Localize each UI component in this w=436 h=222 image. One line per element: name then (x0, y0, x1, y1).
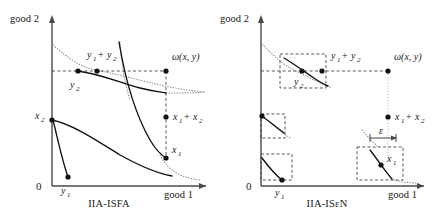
caption-right: IIA-ISεN (218, 198, 436, 209)
caption-left: IIA-ISFA (0, 198, 218, 209)
curve-y-upper (78, 71, 166, 93)
point-y1-plus-y2 (94, 68, 99, 73)
epsilon-measure (370, 134, 397, 142)
curve-aggregate-steep (119, 42, 166, 158)
label-x2: x 2 (34, 110, 45, 124)
svg-text:x: x (34, 110, 40, 121)
point-omega (385, 68, 390, 73)
svg-text:y: y (69, 79, 75, 90)
label-omega: ω(x, y) (394, 51, 422, 63)
point-x1 (163, 155, 168, 160)
panel-iia-isfa: good 2 good 1 0 y 2 y 1 + y 2 ω(x, y) x … (0, 0, 218, 222)
y-axis-label: good 2 (10, 13, 39, 24)
x-axis-arrowhead (199, 183, 206, 189)
x-axis-arrowhead (417, 183, 424, 189)
plot-right: good 2 good 1 0 y 2 y 1 + y 2 ω(x, y) x … (218, 0, 436, 200)
svg-text:y: y (293, 76, 299, 87)
label-x1-plus-x2: x 1 + x 2 (172, 111, 203, 125)
panel-iia-isen: good 2 good 1 0 y 2 y 1 + y 2 ω(x, y) x … (218, 0, 436, 222)
label-omega: ω(x, y) (172, 51, 200, 63)
plot-left: good 2 good 1 0 y 2 y 1 + y 2 ω(x, y) x … (0, 0, 218, 200)
origin-label: 0 (36, 180, 42, 192)
curve-y1-segment (262, 158, 282, 180)
svg-text:2: 2 (421, 117, 425, 125)
svg-text:1: 1 (178, 150, 182, 158)
svg-text:x: x (394, 111, 400, 122)
point-y1 (65, 174, 70, 179)
point-x2 (49, 117, 54, 122)
svg-text:y: y (86, 49, 92, 60)
origin-label: 0 (246, 180, 252, 192)
point-y1-plus-y2 (319, 68, 324, 73)
svg-text:2: 2 (113, 55, 117, 63)
y-axis-arrowhead (49, 15, 55, 23)
svg-text:y: y (274, 187, 280, 198)
y-axis-arrowhead (258, 15, 264, 23)
svg-text:2: 2 (41, 116, 45, 124)
svg-text:2: 2 (300, 82, 304, 90)
dotted-curve-x1-tail (394, 180, 418, 183)
economics-indifference-figure: good 2 good 1 0 y 2 y 1 + y 2 ω(x, y) x … (0, 0, 436, 222)
svg-text:x: x (414, 111, 420, 122)
svg-text:x: x (386, 153, 392, 164)
label-y1: y 1 (60, 185, 71, 199)
label-x1: x 1 (171, 144, 182, 158)
svg-text:y: y (60, 185, 66, 196)
svg-text:+: + (98, 49, 104, 60)
point-y1 (279, 177, 284, 182)
svg-text:x: x (192, 111, 198, 122)
svg-text:+: + (342, 50, 348, 61)
svg-text:2: 2 (357, 56, 361, 64)
curve-x2-segment (262, 116, 284, 133)
svg-text:1: 1 (393, 159, 397, 167)
label-x1-plus-x2: x 1 + x 2 (394, 111, 425, 125)
label-y2: y 2 (69, 79, 80, 93)
svg-text:x: x (172, 111, 178, 122)
svg-text:y: y (106, 49, 112, 60)
point-y2 (75, 68, 80, 73)
svg-text:1: 1 (179, 117, 183, 125)
svg-text:1: 1 (401, 117, 405, 125)
svg-text:2: 2 (199, 117, 203, 125)
point-x1-plus-x2 (163, 114, 168, 119)
point-omega (163, 68, 168, 73)
svg-text:+: + (406, 111, 412, 122)
dotted-curve-omega-tail (166, 92, 206, 93)
svg-text:x: x (171, 144, 177, 155)
label-x1: x 1 (386, 153, 397, 167)
svg-text:y: y (350, 50, 356, 61)
svg-text:2: 2 (76, 85, 80, 93)
curve-y1-steep (53, 120, 68, 177)
label-y1-plus-y2: y 1 + y 2 (86, 49, 117, 63)
svg-text:y: y (330, 50, 336, 61)
svg-text:1: 1 (337, 56, 341, 64)
point-x1-plus-x2 (385, 114, 390, 119)
y-axis-label: good 2 (220, 13, 249, 24)
point-y2 (299, 68, 304, 73)
svg-text:+: + (184, 111, 190, 122)
label-y1-plus-y2: y 1 + y 2 (330, 50, 361, 64)
svg-text:1: 1 (93, 55, 97, 63)
point-x1 (378, 162, 383, 167)
point-x2 (259, 113, 264, 118)
curve-x2-lower (52, 120, 172, 176)
label-epsilon: ε (379, 125, 383, 136)
